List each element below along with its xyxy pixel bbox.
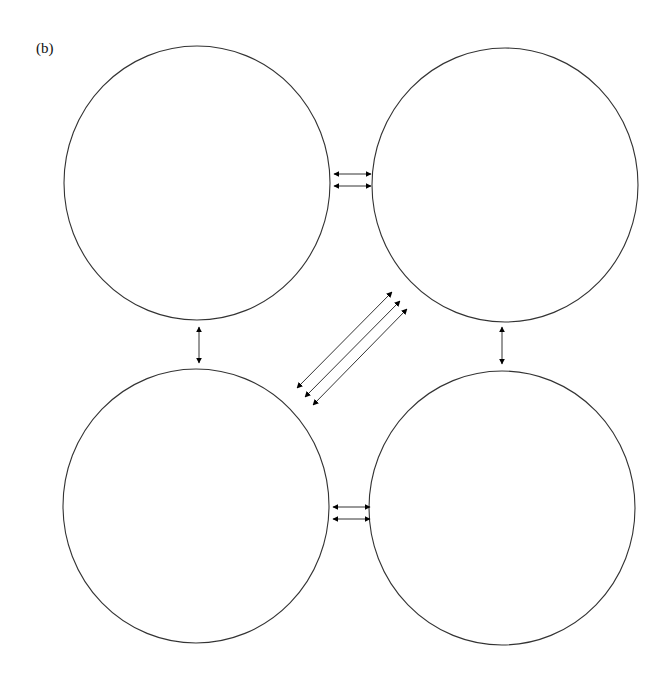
figure-panel-b: (b) [0, 0, 667, 685]
circle-top-left [64, 46, 330, 320]
double-arrows-group [199, 174, 502, 519]
circles-group [63, 46, 638, 645]
circle-bottom-right [369, 371, 635, 645]
circle-bottom-left [63, 369, 329, 643]
four-circle-interaction-diagram [0, 0, 667, 685]
double-arrow-diagonal-2-icon [305, 301, 400, 397]
double-arrow-diagonal-1-icon [297, 292, 392, 388]
circle-top-right [372, 48, 638, 322]
